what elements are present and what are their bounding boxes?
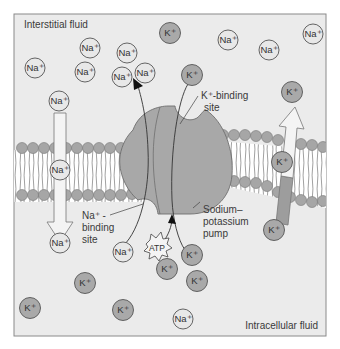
sodium-ion: Na⁺ [80,38,100,58]
svg-text:K⁺: K⁺ [161,263,172,274]
intracellular-fluid-label: Intracellular fluid [245,320,318,331]
na-binding-site-label-line3: site [82,234,98,245]
svg-text:K⁺: K⁺ [117,304,128,315]
svg-text:Na⁺: Na⁺ [50,95,67,106]
sodium-ion: Na⁺ [259,40,279,60]
potassium-ion: K⁺ [20,298,41,319]
na-binding-site-label-line2: binding [82,222,114,233]
sodium-ion: Na⁺ [112,67,132,87]
k-binding-site-label-line2: site [204,102,220,113]
potassium-ion: K⁺ [282,82,303,103]
svg-text:K⁺: K⁺ [286,86,297,97]
sodium-ion: Na⁺ [75,62,95,82]
interstitial-fluid-label: Interstitial fluid [24,19,88,30]
pump-label-line3: pump [203,228,228,239]
potassium-ion: K⁺ [157,259,178,280]
sodium-ion: Na⁺ [49,91,69,111]
membrane-diagram: Na⁺Na⁺Na⁺Na⁺Na⁺Na⁺Na⁺K⁺Na⁺Na⁺Na⁺K⁺K⁺Na⁺K… [0,0,340,349]
svg-text:K⁺: K⁺ [268,224,279,235]
svg-text:K⁺: K⁺ [24,302,35,313]
svg-text:Na⁺: Na⁺ [76,66,93,77]
na-binding-site-label-line1: Na⁺ - [82,210,106,221]
pump-label-line2: potassium [203,216,249,227]
sodium-ion: Na⁺ [113,242,133,262]
svg-text:K⁺: K⁺ [186,249,197,260]
sodium-ion: Na⁺ [50,233,70,253]
svg-text:K⁺: K⁺ [79,277,90,288]
sodium-potassium-pump [120,106,233,214]
svg-text:Na⁺: Na⁺ [304,28,321,39]
sodium-ion: Na⁺ [218,30,238,50]
sodium-ion: Na⁺ [173,309,193,329]
svg-text:Na⁺: Na⁺ [51,164,68,175]
potassium-ion: K⁺ [75,273,96,294]
potassium-ion: K⁺ [187,271,208,292]
pump-label-line1: Sodium– [203,204,243,215]
svg-text:Na⁺: Na⁺ [260,44,277,55]
potassium-ion: K⁺ [113,300,134,321]
svg-text:Na⁺: Na⁺ [81,42,98,53]
svg-text:Na⁺: Na⁺ [113,71,130,82]
sodium-ion: Na⁺ [50,160,70,180]
svg-text:K⁺: K⁺ [191,275,202,286]
sodium-ion: Na⁺ [135,63,155,83]
svg-text:K⁺: K⁺ [164,27,175,38]
k-binding-site-label-line1: K⁺-binding [201,90,248,101]
sodium-ion: Na⁺ [303,24,323,44]
diagram-canvas: Na⁺Na⁺Na⁺Na⁺Na⁺Na⁺Na⁺K⁺Na⁺Na⁺Na⁺K⁺K⁺Na⁺K… [0,0,340,349]
svg-text:Na⁺: Na⁺ [118,47,135,58]
svg-text:Na⁺: Na⁺ [26,62,43,73]
potassium-ion: K⁺ [182,245,203,266]
potassium-ion: K⁺ [264,220,285,241]
svg-text:Na⁺: Na⁺ [174,313,191,324]
svg-text:Na⁺: Na⁺ [114,246,131,257]
potassium-ion: K⁺ [160,23,181,44]
svg-text:K⁺: K⁺ [276,156,287,167]
svg-text:Na⁺: Na⁺ [136,67,153,78]
svg-text:Na⁺: Na⁺ [51,237,68,248]
svg-text:K⁺: K⁺ [186,69,197,80]
potassium-ion: K⁺ [272,152,293,173]
potassium-ion: K⁺ [182,65,203,86]
sodium-ion: Na⁺ [25,58,45,78]
sodium-ion: Na⁺ [117,43,137,63]
atp-label: ATP [149,243,165,253]
svg-text:Na⁺: Na⁺ [219,34,236,45]
